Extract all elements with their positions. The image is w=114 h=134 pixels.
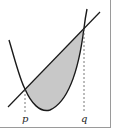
area-between-curves-diagram: p q	[0, 0, 114, 134]
label-q: q	[81, 113, 87, 124]
label-p: p	[22, 113, 29, 124]
shaded-region	[25, 28, 84, 111]
